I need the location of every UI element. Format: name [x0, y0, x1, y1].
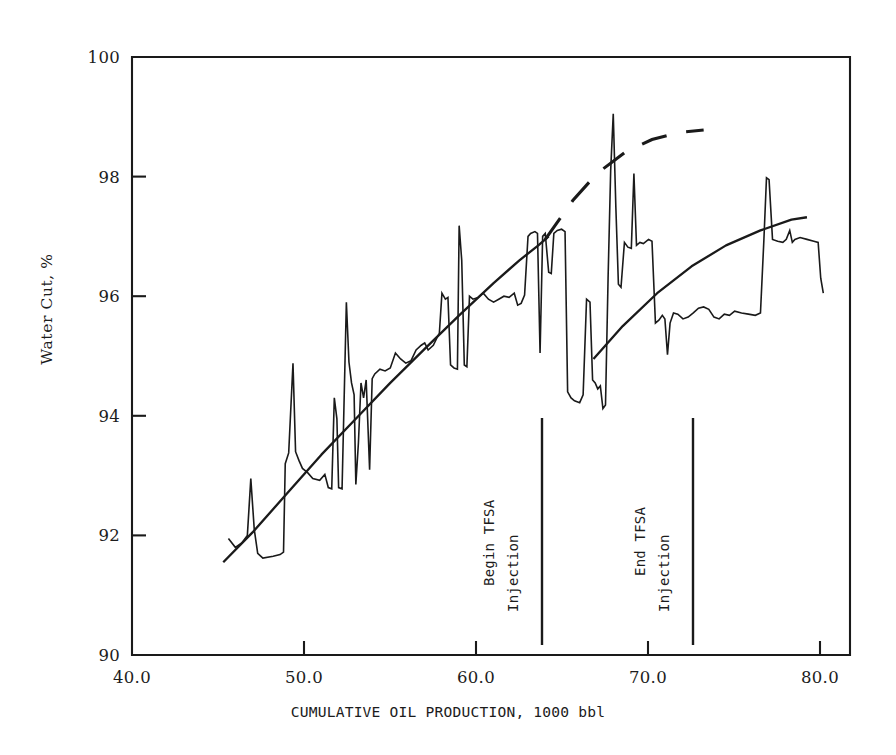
plot-area	[0, 0, 896, 755]
series-trend-line-segment-2-solid	[593, 217, 807, 359]
series-trend-line-solid	[223, 236, 548, 562]
y-axis-ticks	[132, 177, 146, 536]
chart-figure: Water Cut, % 100 98 96 94 92 90 40.0 50.…	[0, 0, 896, 755]
series-extrapolated-projection-dashed	[545, 130, 703, 239]
x-axis-ticks	[304, 641, 820, 655]
series-water-cut-field-data	[228, 114, 823, 558]
annotation-lines	[542, 418, 693, 645]
data-series-layer	[223, 114, 823, 563]
axis-frame	[132, 57, 850, 655]
